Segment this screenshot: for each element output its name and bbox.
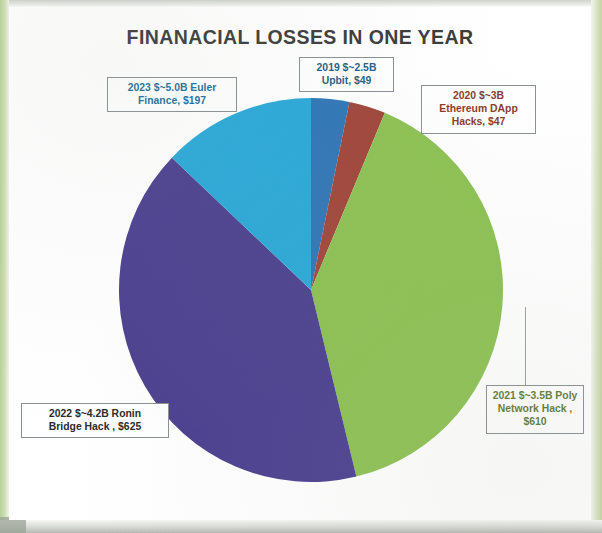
- data-label-2021: 2021 $~3.5B Poly Network Hack , $610: [486, 385, 584, 434]
- scan-edge-right: [591, 0, 602, 533]
- page-title: FINANACIAL LOSSES IN ONE YEAR: [9, 26, 591, 49]
- data-label-2019: 2019 $~2.5B Upbit, $49: [299, 57, 394, 92]
- chart-surface: FINANACIAL LOSSES IN ONE YEAR 2023 $~5.0…: [9, 7, 591, 520]
- data-label-2020: 2020 $~3B Ethereum DApp Hacks, $47: [421, 85, 536, 134]
- data-label-2023: 2023 $~5.0B Euler Finance, $197: [107, 77, 237, 112]
- pie-slice-2020: [311, 102, 385, 290]
- scan-edge-left: [0, 0, 9, 533]
- leader-line-2021: [525, 307, 526, 385]
- scan-edge-top: [0, 0, 602, 7]
- scanned-page: FINANACIAL LOSSES IN ONE YEAR 2023 $~5.0…: [0, 0, 602, 533]
- pie-slice-2021: [311, 113, 503, 477]
- pie-slice-2023: [172, 98, 311, 290]
- data-label-2022: 2022 $~4.2B Ronin Bridge Hack , $625: [21, 403, 169, 438]
- pie-slice-2019: [311, 98, 349, 290]
- scan-edge-bottom: [0, 520, 602, 533]
- pie-slice-group: [119, 98, 503, 482]
